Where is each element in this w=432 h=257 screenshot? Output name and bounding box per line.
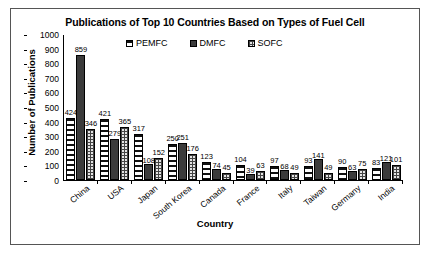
y-axis-tick-label: 700	[27, 74, 63, 84]
bar-value-label: 424	[65, 108, 78, 117]
bar-sofc[interactable]: 101	[392, 165, 401, 180]
bar-pemfc[interactable]: 123	[202, 162, 211, 180]
bar-sofc[interactable]: 49	[290, 173, 299, 180]
bar-rect	[76, 55, 85, 180]
bar-rect	[324, 173, 333, 180]
bar-sofc[interactable]: 346	[86, 129, 95, 180]
y-axis-tick-mark	[24, 137, 27, 138]
bar-value-label: 97	[270, 156, 278, 165]
bar-rect	[100, 119, 109, 180]
bar-sofc[interactable]: 75	[358, 169, 367, 180]
y-axis-tick-mark	[24, 64, 27, 65]
y-axis-tick-label: 900	[27, 45, 63, 55]
y-axis-tick-mark	[24, 108, 27, 109]
y-axis-tick-mark	[24, 166, 27, 167]
bar-sofc[interactable]: 176	[188, 154, 197, 180]
bar-value-label: 859	[75, 45, 88, 54]
bar-groups: 4248593464212793653171081522502511761237…	[64, 35, 403, 180]
bar-sofc[interactable]: 45	[222, 173, 231, 180]
bar-value-label: 251	[176, 133, 189, 142]
bar-rect	[358, 169, 367, 180]
bar-value-label: 365	[119, 117, 132, 126]
y-axis-tick-mark	[24, 181, 27, 182]
y-axis-tick-mark	[24, 123, 27, 124]
bar-value-label: 74	[212, 161, 220, 170]
y-axis-tick-label: 1000	[27, 30, 63, 40]
bar-dmfc[interactable]: 859	[76, 55, 85, 180]
y-axis-tick-mark	[24, 79, 27, 80]
y-axis-tick-label: 0	[27, 176, 63, 186]
bar-value-label: 39	[246, 166, 254, 175]
bar-rect	[348, 171, 357, 180]
bar-value-label: 317	[133, 124, 146, 133]
y-axis-tick-label: 400	[27, 118, 63, 128]
bar-rect	[168, 144, 177, 181]
bar-value-label: 68	[280, 162, 288, 171]
bar-rect	[290, 173, 299, 180]
bar-dmfc[interactable]: 68	[280, 170, 289, 180]
plot-area: 10009008007006005004003002001000 4248593…	[63, 35, 403, 181]
bar-pemfc[interactable]: 104	[236, 165, 245, 180]
bar-pemfc[interactable]: 250	[168, 144, 177, 181]
bar-rect	[280, 170, 289, 180]
y-axis-tick-label: 200	[27, 147, 63, 157]
bar-rect	[202, 162, 211, 180]
y-axis-tick-mark	[24, 50, 27, 51]
bar-sofc[interactable]: 49	[324, 173, 333, 180]
y-axis-tick-label: 500	[27, 103, 63, 113]
bar-rect	[222, 173, 231, 180]
bar-rect	[154, 158, 163, 180]
bar-rect	[212, 169, 221, 180]
bar-rect	[236, 165, 245, 180]
bar-pemfc[interactable]: 97	[270, 166, 279, 180]
bar-pemfc[interactable]: 90	[338, 167, 347, 180]
bar-dmfc[interactable]: 141	[314, 159, 323, 180]
bar-value-label: 279	[109, 129, 122, 138]
x-axis-tick-label: Taiwan	[302, 183, 329, 208]
bar-rect	[304, 166, 313, 180]
bar-group: 1237445	[200, 35, 234, 180]
bar-rect	[110, 139, 119, 180]
x-axis-title: Country	[11, 218, 419, 229]
chart-title: Publications of Top 10 Countries Based o…	[11, 16, 419, 28]
bar-group: 424859346	[64, 35, 98, 180]
bar-pemfc[interactable]: 424	[66, 118, 75, 180]
bar-sofc[interactable]: 152	[154, 158, 163, 180]
bar-value-label: 152	[153, 148, 166, 157]
bar-rect	[372, 168, 381, 180]
y-axis-tick-mark	[24, 93, 27, 94]
bar-group: 83121101	[369, 35, 403, 180]
bar-dmfc[interactable]: 63	[348, 171, 357, 180]
y-axis-tick-label: 300	[27, 132, 63, 142]
bar-rect	[188, 154, 197, 180]
bar-value-label: 108	[143, 156, 156, 165]
y-axis-tick-label: 800	[27, 59, 63, 69]
bar-rect	[144, 164, 153, 180]
bar-pemfc[interactable]: 421	[100, 119, 109, 180]
bar-group: 1043963	[234, 35, 268, 180]
y-axis-tick-label: 600	[27, 88, 63, 98]
bar-value-label: 75	[358, 159, 366, 168]
bar-value-label: 63	[348, 163, 356, 172]
bar-value-label: 421	[99, 109, 112, 118]
bar-dmfc[interactable]: 121	[382, 162, 391, 180]
bar-value-label: 141	[312, 151, 325, 160]
bar-pemfc[interactable]: 93	[304, 166, 313, 180]
bar-sofc[interactable]: 63	[256, 171, 265, 180]
bar-dmfc[interactable]: 74	[212, 169, 221, 180]
y-axis-tick-label: 100	[27, 161, 63, 171]
bar-group: 906375	[335, 35, 369, 180]
bar-value-label: 176	[186, 144, 199, 153]
bar-value-label: 123	[200, 152, 213, 161]
bar-dmfc[interactable]: 39	[246, 174, 255, 180]
bar-rect	[392, 165, 401, 180]
bar-sofc[interactable]: 365	[120, 127, 129, 180]
bar-rect	[314, 159, 323, 180]
bar-dmfc[interactable]: 108	[144, 164, 153, 180]
bar-value-label: 346	[85, 119, 98, 128]
bar-pemfc[interactable]: 83	[372, 168, 381, 180]
bar-dmfc[interactable]: 279	[110, 139, 119, 180]
x-axis-tick-label: India	[376, 183, 397, 203]
bar-rect	[338, 167, 347, 180]
bar-group: 9314149	[301, 35, 335, 180]
